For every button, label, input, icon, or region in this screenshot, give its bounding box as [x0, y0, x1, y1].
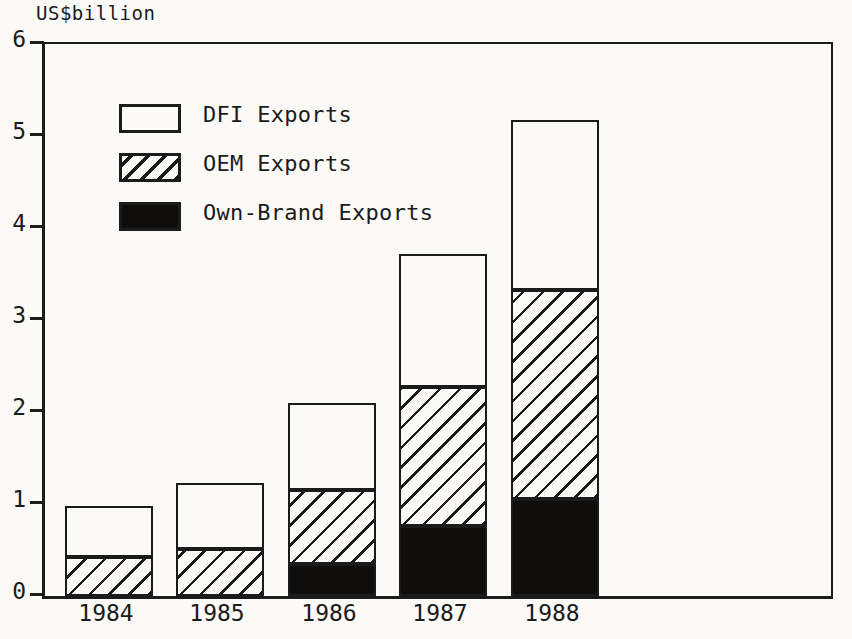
bar-1987: [399, 44, 487, 596]
bar-segment-1985-dfi-exports: [176, 483, 264, 549]
diagonal-hatch-swatch-icon: [119, 153, 181, 182]
bar-segment-1987-dfi-exports: [399, 254, 487, 387]
x-tick-label-1986: 1986: [274, 601, 384, 626]
x-tick-label-1988: 1988: [497, 601, 607, 626]
legend-label-own-brand-exports: Own-Brand Exports: [203, 200, 433, 225]
bar-1988: [511, 44, 599, 596]
bar-segment-1984-dfi-exports: [65, 506, 153, 558]
x-tick-label-1985: 1985: [162, 601, 272, 626]
bar-segment-1985-oem-exports: [176, 549, 264, 596]
bar-segment-1987-oem-exports: [399, 387, 487, 526]
y-tick-label: 3: [4, 304, 26, 327]
bar-segment-1988-own-brand-exports: [511, 499, 599, 596]
y-tick-label: 6: [4, 28, 26, 51]
bar-segment-1988-dfi-exports: [511, 120, 599, 289]
bar-segment-1986-own-brand-exports: [288, 564, 376, 596]
y-tick-label: 1: [4, 488, 26, 511]
y-axis-unit-label: US$billion: [36, 2, 155, 24]
x-tick-label-1987: 1987: [385, 601, 495, 626]
bar-segment-1988-oem-exports: [511, 290, 599, 500]
y-tick-label: 5: [4, 120, 26, 143]
bar-segment-1984-oem-exports: [65, 557, 153, 596]
legend-label-oem-exports: OEM Exports: [203, 151, 352, 176]
bar-segment-1986-oem-exports: [288, 490, 376, 564]
chart-page: US$billion 0123456 DFI Exports OEM Expor…: [0, 0, 852, 639]
x-tick-label-1984: 1984: [51, 601, 161, 626]
legend-label-dfi-exports: DFI Exports: [203, 102, 352, 127]
solid-black-swatch-icon: [119, 202, 181, 231]
y-tick-label: 2: [4, 396, 26, 419]
bar-segment-1987-own-brand-exports: [399, 526, 487, 596]
bar-segment-1986-dfi-exports: [288, 403, 376, 490]
y-tick-label: 0: [4, 580, 26, 603]
empty-white-swatch-icon: [119, 104, 181, 133]
y-tick-label: 4: [4, 212, 26, 235]
plot-area: DFI Exports OEM Exports Own-Brand Export…: [42, 42, 833, 599]
